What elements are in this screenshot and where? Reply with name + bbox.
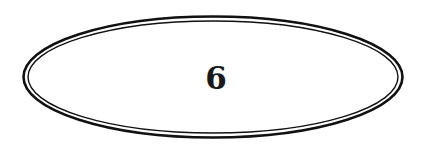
chapter-number: 6: [0, 58, 430, 98]
